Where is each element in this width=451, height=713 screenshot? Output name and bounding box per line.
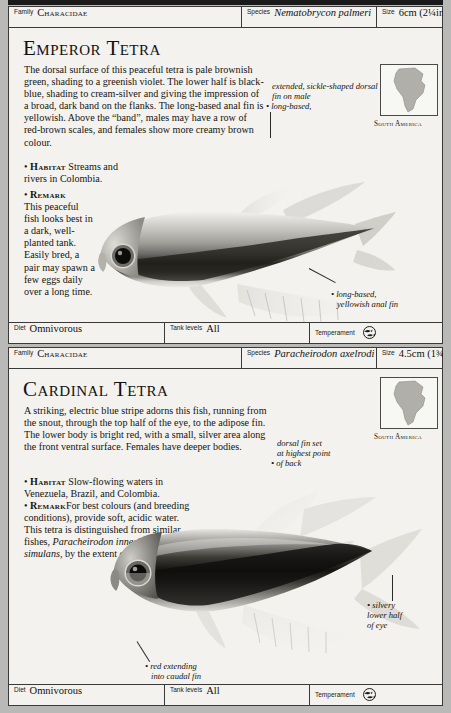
family-label: Family: [14, 349, 33, 356]
species-field: Species Nematobrycon palmeri: [241, 7, 376, 27]
size-label: Size: [382, 8, 395, 15]
leader-line-eye: [392, 575, 393, 601]
size-value: 6cm (2¼in): [399, 7, 443, 18]
description-text: A striking, electric blue stripe adorns …: [24, 405, 268, 453]
remark-text: This peaceful fish looks best in a dark,…: [24, 201, 95, 297]
species-header: Family Characidae Species Paracheirodon …: [9, 348, 442, 369]
temperament-label: Temperament: [315, 329, 355, 336]
species-body: Cardinal Tetra A striking, electric blue…: [9, 369, 442, 684]
temperament-label: Temperament: [315, 691, 355, 698]
annotation-anal-line2: yellowish anal fin: [337, 300, 398, 310]
temperament-field: Temperament: [309, 323, 443, 343]
diet-field: Diet Omnivorous: [9, 323, 164, 343]
diet-label: Diet: [14, 324, 26, 331]
tank-levels-value: All: [206, 685, 219, 696]
diet-field: Diet Omnivorous: [9, 685, 164, 705]
tank-levels-label: Tank levels: [170, 686, 202, 693]
fish-shoal-icon: [362, 687, 377, 705]
temperament-field: Temperament: [309, 685, 443, 705]
map-caption: South America: [374, 120, 422, 128]
page-top-rule: [8, 0, 443, 5]
field-guide-page: Family Characidae Species Nematobrycon p…: [0, 0, 451, 713]
page-title: Cardinal Tetra: [23, 377, 168, 402]
tank-levels-value: All: [206, 323, 219, 334]
size-field: Size 4.5cm (1¾in): [376, 348, 443, 368]
habitat-label: Habitat: [30, 476, 66, 487]
tank-levels-field: Tank levels All: [164, 685, 309, 705]
annotation-dorsal-line3: long-based,: [266, 102, 312, 112]
annotation-eye-line3: of eye: [367, 621, 387, 631]
species-label: Species: [247, 349, 270, 356]
size-value: 4.5cm (1¾in): [399, 348, 443, 359]
species-footer: Diet Omnivorous Tank levels All Temperam…: [9, 322, 442, 343]
species-value: Paracheirodon axelrodi: [274, 348, 374, 359]
fish-photograph-cardinal-tetra: [104, 487, 424, 684]
family-value: Characidae: [37, 7, 87, 18]
species-panel-cardinal-tetra: Family Characidae Species Paracheirodon …: [8, 347, 443, 706]
diet-value: Omnivorous: [30, 323, 83, 334]
family-field: Family Characidae: [9, 7, 241, 27]
annotation-dorsal-line3: of back: [271, 459, 301, 469]
species-body: Emperor Tetra The dorsal surface of this…: [9, 28, 442, 322]
species-panel-emperor-tetra: Family Characidae Species Nematobrycon p…: [8, 6, 443, 344]
fish-shoal-icon: [362, 325, 377, 343]
remark-block: • Remark This peaceful fish looks best i…: [24, 189, 96, 298]
size-label: Size: [382, 349, 395, 356]
species-value: Nematobrycon palmeri: [274, 7, 371, 18]
remark-label: Remark: [30, 189, 66, 200]
species-field: Species Paracheirodon axelrodi: [241, 348, 376, 368]
species-header: Family Characidae Species Nematobrycon p…: [9, 7, 442, 28]
species-label: Species: [247, 8, 270, 15]
diet-label: Diet: [14, 686, 26, 693]
family-label: Family: [14, 8, 33, 15]
diet-value: Omnivorous: [30, 685, 83, 696]
family-value: Characidae: [37, 348, 87, 359]
description-text: The dorsal surface of this peaceful tetr…: [24, 64, 264, 149]
tank-levels-label: Tank levels: [170, 324, 202, 331]
annotation-caudal-line2: into caudal fin: [151, 672, 201, 682]
leader-line-dorsal: [270, 112, 271, 138]
distribution-map: [380, 377, 438, 429]
tank-levels-field: Tank levels All: [164, 323, 309, 343]
remark-label: Remark: [30, 500, 66, 511]
page-title: Emperor Tetra: [23, 36, 161, 61]
family-field: Family Characidae: [9, 348, 241, 368]
species-footer: Diet Omnivorous Tank levels All Temperam…: [9, 684, 442, 705]
map-caption: South America: [374, 433, 422, 441]
distribution-map: [380, 64, 438, 116]
size-field: Size 6cm (2¼in): [376, 7, 443, 27]
habitat-label: Habitat: [30, 161, 66, 172]
